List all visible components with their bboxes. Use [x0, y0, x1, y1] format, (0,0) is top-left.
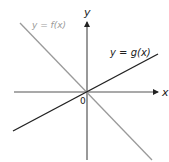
origin-label: 0: [80, 96, 86, 106]
y-axis-label: y: [83, 6, 91, 19]
coordinate-diagram: x y 0 y = f(x) y = g(x): [0, 0, 169, 162]
x-axis-label: x: [161, 86, 169, 99]
curve-g-label: y = g(x): [109, 47, 151, 58]
curve-f-label: y = f(x): [31, 20, 66, 30]
